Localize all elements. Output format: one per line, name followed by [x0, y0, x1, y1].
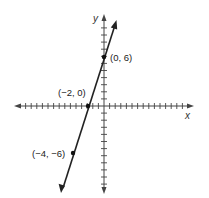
x-axis-left-arrow-icon — [14, 104, 21, 109]
point-label-neg2-0: (−2, 0) — [58, 88, 86, 98]
y-axis-bottom-arrow-icon — [102, 187, 107, 194]
line-top-arrow-icon — [111, 20, 117, 30]
point-neg4-neg6 — [71, 151, 75, 155]
point-label-0-6: (0, 6) — [110, 53, 132, 63]
y-axis-top-arrow-icon — [102, 14, 107, 21]
x-axis-right-arrow-icon — [187, 104, 194, 109]
point-0-6 — [102, 55, 106, 59]
point-label-neg4-neg6: (−4, −6) — [32, 149, 65, 159]
coordinate-plane — [0, 0, 209, 198]
y-axis-label: y — [93, 14, 98, 24]
x-axis-label: x — [185, 111, 190, 121]
point-neg2-0 — [86, 104, 90, 108]
